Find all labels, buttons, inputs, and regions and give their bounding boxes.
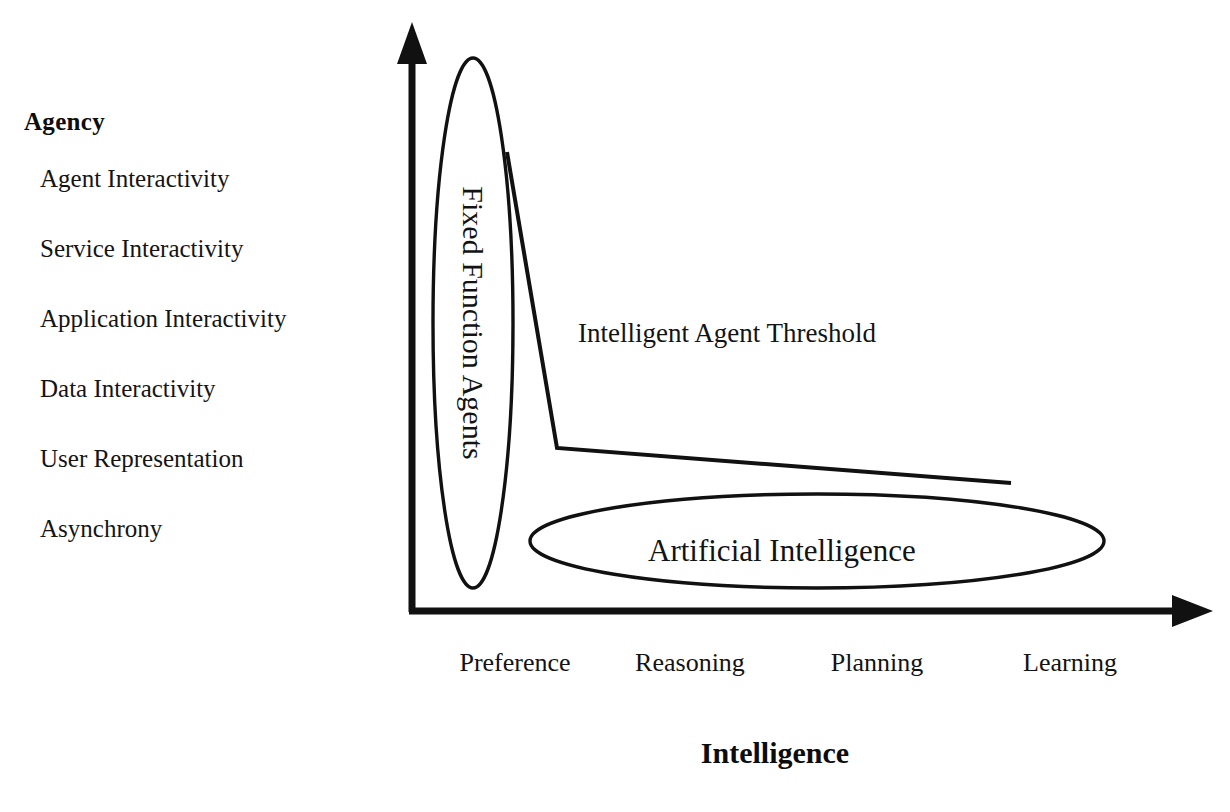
x-axis [409, 595, 1213, 627]
x-axis-tick-planning: Planning [802, 648, 952, 678]
fixed-function-agents-label: Fixed Function Agents [456, 186, 490, 459]
x-axis-tick-learning: Learning [995, 648, 1145, 678]
x-axis-tick-preference: Preference [440, 648, 590, 678]
y-axis [397, 22, 427, 612]
x-axis-tick-reasoning: Reasoning [615, 648, 765, 678]
x-axis-title: Intelligence [605, 736, 945, 770]
plot-graphics [0, 0, 1230, 812]
diagram-canvas: Agency Agent Interactivity Service Inter… [0, 0, 1230, 812]
intelligent-agent-threshold-label: Intelligent Agent Threshold [578, 318, 876, 349]
artificial-intelligence-label: Artificial Intelligence [648, 533, 916, 569]
